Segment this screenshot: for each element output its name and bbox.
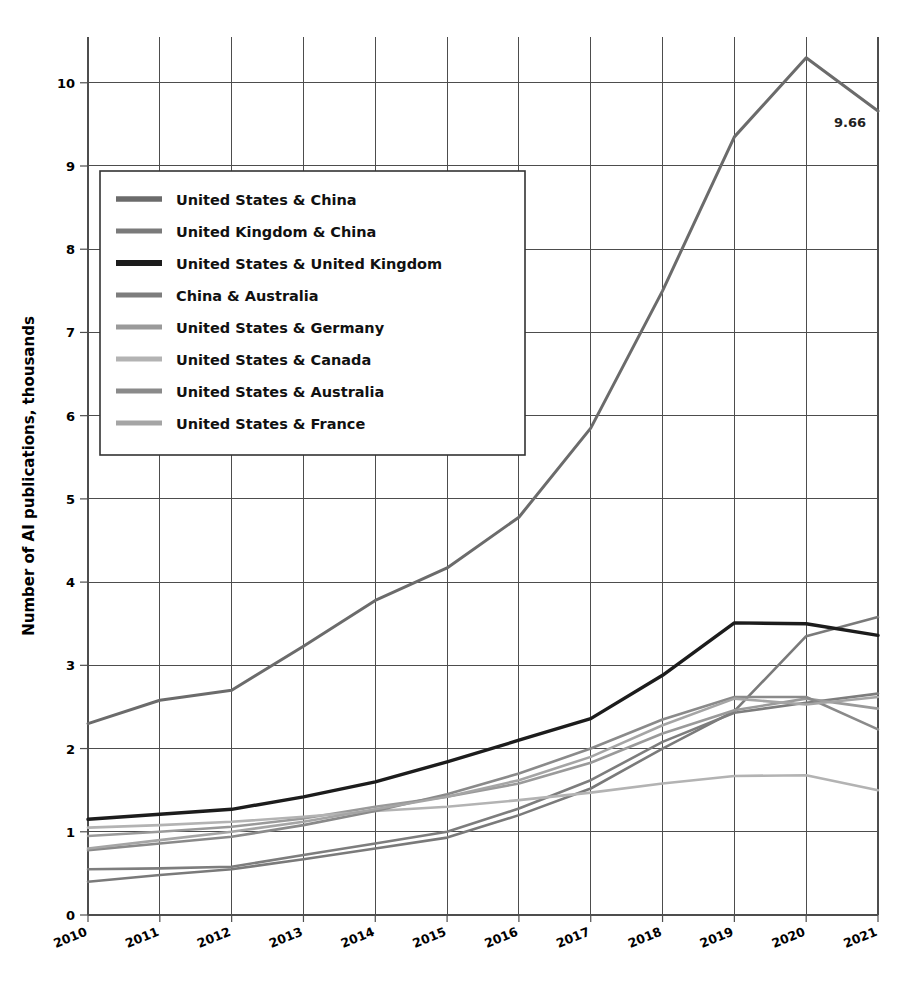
x-tick-label: 2012 (195, 924, 233, 951)
x-tick-label: 2021 (841, 924, 879, 951)
x-tick-label: 2016 (482, 924, 520, 951)
y-tick-label: 7 (66, 325, 75, 340)
series-line-4 (88, 699, 878, 836)
x-tick-label: 2015 (410, 924, 448, 951)
y-tick-label: 2 (66, 742, 75, 757)
chart-canvas: 0123456789102010201120122013201420152016… (0, 0, 910, 1000)
x-tick-label: 2019 (698, 924, 736, 951)
y-tick-label: 10 (57, 76, 75, 91)
y-tick-label: 5 (66, 492, 75, 507)
y-tick-label: 1 (66, 825, 75, 840)
x-tick-label: 2011 (123, 924, 161, 951)
legend-label-2: United States & United Kingdom (176, 256, 442, 272)
y-tick-label: 9 (66, 159, 75, 174)
legend: United States & ChinaUnited Kingdom & Ch… (100, 171, 525, 455)
x-tick-label: 2020 (769, 924, 807, 951)
series-line-3 (88, 694, 878, 870)
x-tick-label: 2017 (554, 924, 592, 951)
line-chart: 0123456789102010201120122013201420152016… (0, 0, 910, 1000)
y-tick-label: 4 (66, 575, 75, 590)
data-point-label: 9.66 (834, 115, 866, 130)
legend-label-3: China & Australia (176, 288, 319, 304)
y-tick-label: 3 (66, 658, 75, 673)
x-tick-label: 2018 (626, 924, 664, 951)
legend-label-6: United States & Australia (176, 384, 384, 400)
legend-label-7: United States & France (176, 416, 365, 432)
legend-label-1: United Kingdom & China (176, 224, 376, 240)
x-tick-label: 2013 (267, 924, 305, 951)
y-tick-label: 6 (66, 409, 75, 424)
y-tick-label: 0 (66, 908, 75, 923)
y-tick-label: 8 (66, 242, 75, 257)
legend-background (100, 171, 525, 455)
legend-label-5: United States & Canada (176, 352, 371, 368)
legend-label-4: United States & Germany (176, 320, 385, 336)
legend-label-0: United States & China (176, 192, 357, 208)
x-tick-label: 2010 (51, 924, 89, 951)
x-tick-label: 2014 (339, 924, 377, 951)
y-axis-title: Number of AI publications, thousands (20, 316, 38, 636)
